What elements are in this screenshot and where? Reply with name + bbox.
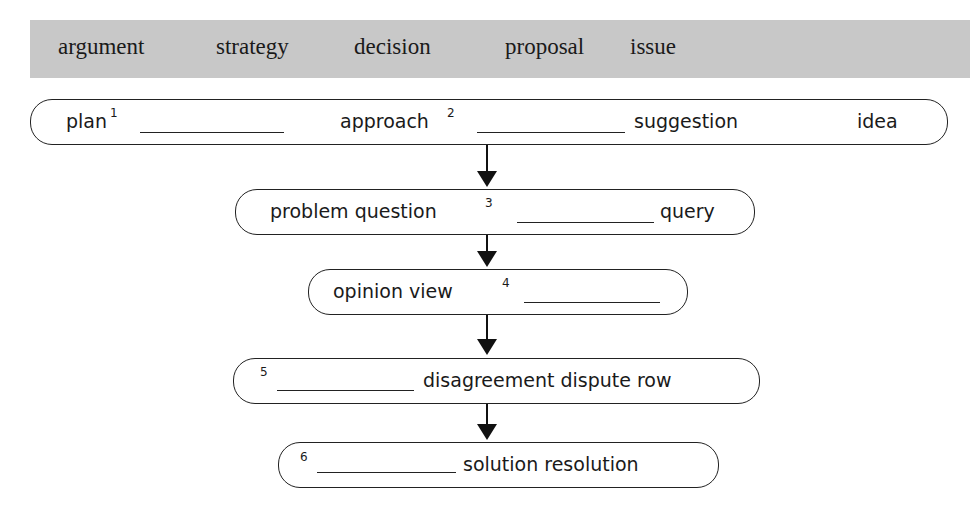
word-suggestion: suggestion — [634, 110, 738, 132]
gap-number-6: 6 — [300, 450, 308, 464]
gap-number-1: 1 — [110, 106, 118, 120]
blank-6[interactable] — [317, 472, 456, 473]
blank-3[interactable] — [517, 222, 654, 223]
words-opinion-view: opinion view — [333, 280, 453, 302]
gap-number-3: 3 — [485, 196, 493, 210]
gap-number-2: 2 — [447, 106, 455, 120]
words-disagreement: disagreement dispute row — [423, 369, 672, 391]
flow-box-1 — [30, 99, 948, 145]
gap-number-4: 4 — [502, 276, 510, 290]
blank-1[interactable] — [140, 132, 284, 133]
word-idea: idea — [857, 110, 898, 132]
word-bank: argument strategy decision proposal issu… — [30, 20, 970, 78]
words-solution: solution resolution — [463, 453, 639, 475]
word-query: query — [660, 200, 715, 222]
word-bank-item: strategy — [216, 34, 289, 60]
words-problem-question: problem question — [270, 200, 437, 222]
word-approach: approach — [340, 110, 429, 132]
blank-5[interactable] — [277, 390, 414, 391]
word-bank-item: decision — [354, 34, 431, 60]
word-bank-item: argument — [58, 34, 144, 60]
gap-number-5: 5 — [260, 365, 268, 379]
blank-2[interactable] — [477, 132, 625, 133]
arrow-down-icon — [477, 145, 497, 187]
word-bank-item: proposal — [505, 34, 584, 60]
arrow-down-icon — [477, 235, 497, 267]
word-plan: plan — [66, 110, 107, 132]
arrow-down-icon — [477, 315, 497, 355]
word-bank-item: issue — [630, 34, 676, 60]
arrow-down-icon — [477, 404, 497, 440]
blank-4[interactable] — [524, 302, 660, 303]
